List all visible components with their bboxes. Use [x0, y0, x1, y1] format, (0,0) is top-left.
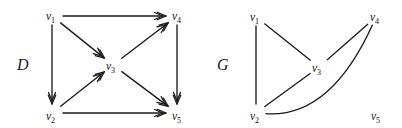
edge-line-path: [61, 23, 105, 58]
figure-root: v1v2v3v4v5D v1v2v3v4v5G: [0, 0, 402, 128]
vertex-label-D-v1: v1: [46, 10, 55, 25]
edge-v2-v5: [63, 109, 166, 116]
edge-v1-v2: [48, 25, 55, 104]
vertex-label-G-v2: v2: [250, 110, 259, 125]
edge-v4-v5: [173, 25, 180, 104]
edge-v1-v3: [61, 23, 105, 58]
edge-v3-v4: [122, 23, 169, 59]
vertex-label-G-v1: v1: [250, 11, 259, 26]
vertex-label-G-v4: v4: [370, 11, 379, 26]
vertex-label-G-v3: v3: [312, 62, 321, 77]
diagram-canvas: v1v2v3v4v5D v1v2v3v4v5G: [0, 0, 402, 128]
vertex-label-G-v5: v5: [371, 110, 380, 125]
edge-v2-v3: [265, 73, 310, 106]
vertex-label-D-v2: v2: [46, 110, 55, 125]
edge-line-path: [122, 23, 169, 59]
edge-v3-v4: [327, 24, 367, 60]
edge-line-path: [61, 72, 105, 106]
edge-v3-v5: [122, 72, 168, 107]
vertex-label-D-v5: v5: [172, 110, 181, 125]
edge-line-path: [265, 24, 311, 60]
graph-directed-D: v1v2v3v4v5D: [16, 10, 181, 125]
vertex-label-D-v4: v4: [172, 10, 181, 25]
graph-name-G: G: [217, 56, 229, 73]
graph-name-D: D: [16, 56, 29, 73]
edge-v1-v3: [265, 24, 311, 60]
graph-undirected-G: v1v2v3v4v5G: [217, 11, 380, 125]
edge-v1-v4: [63, 12, 166, 19]
edge-v2-v3: [61, 72, 105, 106]
edge-line-path: [122, 72, 168, 107]
edge-line-path: [265, 73, 310, 106]
vertex-label-D-v3: v3: [106, 60, 115, 75]
edge-line-path: [327, 24, 367, 60]
